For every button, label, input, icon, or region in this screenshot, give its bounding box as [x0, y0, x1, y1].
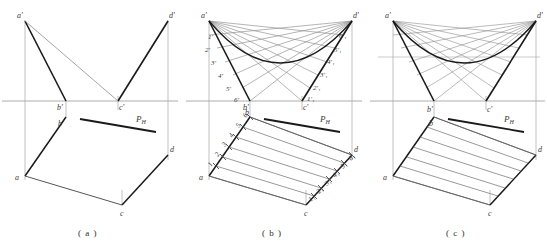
- svg-text:5₁: 5₁: [339, 161, 349, 171]
- svg-text:6': 6': [234, 96, 240, 104]
- generator-fan-c: [393, 21, 536, 101]
- cross-ap-cp-a: [25, 21, 118, 101]
- svg-text:3': 3': [210, 59, 217, 67]
- division-labels-upper-right-b: 6'₁ 5'₁ 4'₁ 3'₁ 2'₁ 1'₁: [307, 32, 346, 103]
- svg-text:1': 1': [208, 33, 214, 41]
- plan-b-a-b: [209, 117, 250, 176]
- label-c-d: d: [538, 145, 543, 154]
- technical-drawing-canvas: a' d' b' c' b a c d PH: [0, 0, 547, 248]
- label-b-cprime: c': [303, 103, 309, 112]
- svg-text:2'₁: 2'₁: [313, 84, 320, 92]
- plan-c-d: [122, 155, 168, 205]
- label-c-b: b: [429, 119, 433, 128]
- label-c-c: c: [488, 209, 492, 218]
- svg-text:3'₁: 3'₁: [319, 71, 327, 79]
- label-a-cprime: c': [119, 103, 125, 112]
- caption-panel-a: ( a ): [78, 228, 98, 238]
- label-a-c: c: [120, 209, 124, 218]
- label-a-bprime: b': [57, 103, 63, 112]
- panel-a: a' d' b' c' b a c d PH: [2, 11, 178, 218]
- label-a-d: d: [170, 145, 175, 154]
- label-b-a: a: [199, 173, 203, 182]
- svg-text:5'₁: 5'₁: [334, 46, 341, 54]
- figure-sheet: a' d' b' c' b a c d PH: [0, 0, 547, 248]
- label-b-trace: PH: [319, 114, 331, 125]
- caption-panel-c: ( c ): [446, 228, 466, 238]
- svg-text:3: 3: [220, 140, 229, 149]
- svg-text:4₁: 4₁: [331, 170, 341, 180]
- label-c-aprime: a': [385, 11, 391, 20]
- svg-text:4': 4': [218, 72, 224, 80]
- caption-panel-b: ( b ): [262, 228, 282, 238]
- plan-c-c-d: [490, 155, 536, 205]
- svg-text:6₁: 6₁: [347, 153, 357, 163]
- plan-a-c: [25, 176, 122, 205]
- svg-text:2': 2': [205, 46, 211, 54]
- label-a-dprime: d': [169, 11, 175, 20]
- label-c-cprime: c': [487, 105, 493, 114]
- svg-text:6'₁: 6'₁: [339, 32, 346, 40]
- label-a-a: a: [15, 173, 19, 182]
- label-b-c: c: [304, 209, 308, 218]
- svg-text:5': 5': [226, 85, 232, 93]
- label-a-b: b: [58, 119, 62, 128]
- label-c-bprime: b': [427, 105, 433, 114]
- label-c-dprime: d': [537, 11, 543, 20]
- panel-c: a' d' b' c' b a c d PH: [370, 11, 545, 218]
- plan-b-d: [66, 117, 168, 155]
- svg-text:1: 1: [206, 161, 215, 168]
- label-b-d: d: [354, 145, 359, 154]
- division-labels-upper-left-b: 1' 2' 3' 4' 5' 6': [205, 33, 240, 104]
- label-a-trace: PH: [135, 114, 147, 125]
- edge-dp-cp-a: [118, 21, 168, 101]
- label-a-aprime: a': [17, 11, 23, 20]
- label-b-dprime: d': [353, 11, 359, 20]
- panel-b: a' d' b' c' b a c d PH 1' 2' 3' 4' 5' 6'…: [186, 11, 362, 218]
- label-b-aprime: a': [201, 11, 207, 20]
- label-c-trace: PH: [503, 114, 515, 125]
- svg-text:1'₁: 1'₁: [307, 95, 314, 103]
- plan-c-a-b: [393, 117, 434, 176]
- label-c-a: a: [383, 173, 387, 182]
- svg-text:4'₁: 4'₁: [327, 58, 334, 66]
- edge-ap-bp-a: [25, 21, 66, 101]
